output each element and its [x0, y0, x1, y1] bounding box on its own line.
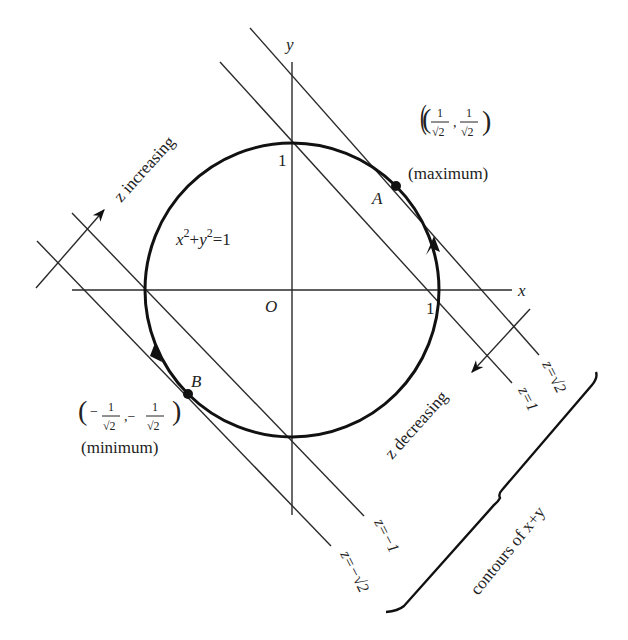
- svg-text:,−: ,−: [124, 409, 136, 424]
- svg-text:√2: √2: [432, 125, 445, 139]
- svg-text:√2: √2: [103, 419, 116, 433]
- x-axis-label: x: [517, 281, 526, 300]
- svg-text:√2: √2: [147, 419, 160, 433]
- y-axis-label: y: [284, 35, 294, 54]
- point-b-coordinates: ( − 1 √2 ,− 1 √2 ): [78, 395, 181, 433]
- point-a-coordinates: ( 1 √2 , 1 √2 ) (: [420, 98, 491, 139]
- point-a-label: A: [371, 189, 383, 208]
- contour-label-z-neg1: z=−1: [371, 515, 403, 556]
- x-tick-label: 1: [426, 299, 435, 318]
- circle-equation: x2+y2=1: [175, 226, 231, 249]
- svg-text:1: 1: [437, 106, 443, 120]
- svg-text:1: 1: [152, 400, 158, 414]
- svg-text:1: 1: [108, 400, 114, 414]
- contour-label-z-sqrt2: z=√2: [539, 357, 570, 396]
- z-increasing-arrow: [36, 210, 104, 288]
- contour-label-z-1: z=1: [515, 383, 542, 414]
- origin-label: O: [265, 297, 277, 316]
- point-a-marker: [391, 181, 401, 191]
- contour-line-z-neg1: [72, 213, 364, 516]
- svg-text:(: (: [78, 395, 87, 426]
- svg-text:,: ,: [453, 115, 457, 130]
- contour-label-z-neg-sqrt2: z=−√2: [337, 547, 373, 595]
- point-b-label: B: [191, 372, 202, 391]
- y-tick-label: 1: [278, 151, 287, 170]
- svg-text:√2: √2: [461, 125, 474, 139]
- paren-open: (: [422, 103, 431, 134]
- svg-text:1: 1: [466, 106, 472, 120]
- z-decreasing-arrow: [472, 309, 530, 372]
- brace-label: contours of x+y: [466, 502, 549, 598]
- svg-text:): ): [172, 395, 181, 426]
- lagrange-contour-diagram: x y O 1 1 x2+y2=1 A ( 1 √2 , 1 √2 ) ( (m…: [0, 0, 628, 640]
- contour-line-z-sqrt2: [250, 28, 539, 355]
- point-b-note: (minimum): [81, 438, 158, 457]
- z-increasing-label: z increasing: [110, 132, 179, 206]
- svg-text:): ): [482, 105, 491, 136]
- svg-text:−: −: [90, 404, 98, 419]
- point-a-note: (maximum): [408, 164, 488, 183]
